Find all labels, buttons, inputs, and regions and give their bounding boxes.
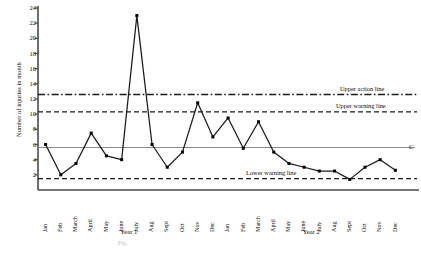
data-point-marker (242, 147, 245, 150)
data-point-marker (166, 166, 169, 169)
x-tick-label: Jan (224, 224, 230, 232)
x-tick-label: Sept (346, 221, 352, 232)
x-tick-label: March (255, 216, 261, 232)
x-tick-label: April (270, 219, 276, 232)
x-tick-label: Nov (376, 222, 382, 233)
data-point-marker (227, 116, 230, 119)
upper-action-line-label: Upper action line (340, 85, 384, 92)
figure-caption: Fig. (118, 240, 128, 246)
upper-warning-line-label: Upper warning line (336, 102, 386, 109)
data-point-marker (75, 162, 78, 165)
control-chart-figure: Number of injuries in month 246810121416… (0, 0, 421, 253)
group-label-year-1: Year 1 (120, 228, 137, 235)
data-point-marker (394, 169, 397, 172)
x-tick-label: March (72, 216, 78, 232)
x-tick-label: Dec (209, 222, 215, 232)
data-point-marker (379, 158, 382, 161)
centre-line-label: C (409, 143, 413, 150)
x-tick-label: Oct (179, 223, 185, 232)
data-point-marker (211, 135, 214, 138)
x-axis-month-labels: JanFebMarchAprilMayJuneJulyAugSeptOctNov… (0, 190, 421, 232)
x-tick-label: Feb (57, 223, 63, 232)
data-point-marker (318, 170, 321, 173)
data-point-marker (105, 154, 108, 157)
data-point-marker (90, 132, 93, 135)
data-point-marker (120, 158, 123, 161)
x-tick-label: Aug (148, 222, 154, 233)
data-point-marker (151, 143, 154, 146)
data-point-marker (333, 170, 336, 173)
group-label-year-2: Year 2 (303, 228, 320, 235)
data-point-marker (44, 143, 47, 146)
x-tick-label: Nov (194, 222, 200, 233)
lower-warning-line-label: Lower warning line (246, 169, 296, 176)
x-tick-label: May (103, 221, 109, 232)
data-line-series (46, 16, 396, 180)
data-point-marker (135, 14, 138, 17)
data-point-marker (348, 178, 351, 181)
data-point-marker (303, 166, 306, 169)
data-point-marker (181, 151, 184, 154)
x-tick-label: Feb (240, 223, 246, 232)
data-point-marker (287, 162, 290, 165)
data-point-marker (363, 166, 366, 169)
x-tick-label: Aug (331, 222, 337, 233)
data-point-marker (272, 151, 275, 154)
x-tick-label: Oct (361, 223, 367, 232)
x-tick-label: Sept (163, 221, 169, 232)
x-tick-label: May (285, 221, 291, 232)
x-tick-label: Dec (392, 222, 398, 232)
data-point-marker (59, 173, 62, 176)
data-point-marker (257, 120, 260, 123)
data-point-marker (196, 101, 199, 104)
x-tick-label: April (87, 219, 93, 232)
x-tick-label: Jan (42, 224, 48, 232)
